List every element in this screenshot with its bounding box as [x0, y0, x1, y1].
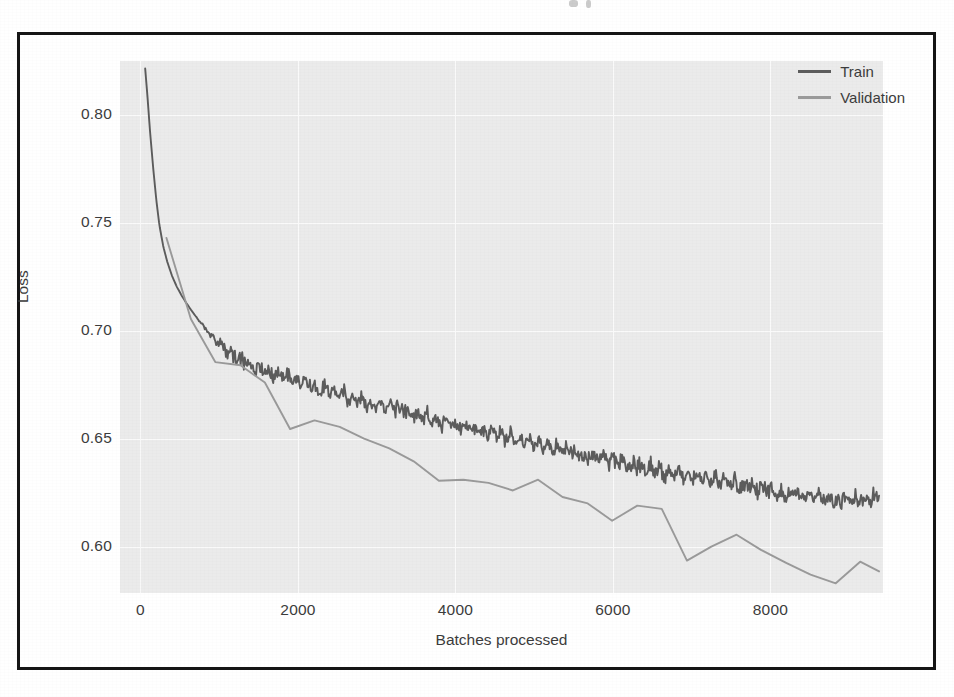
x-axis-title: Batches processed: [120, 631, 883, 649]
y-tick-label: 0.65: [42, 429, 112, 447]
y-tick-label: 0.80: [42, 105, 112, 123]
scan-artifact-strip: [0, 0, 954, 22]
legend-swatch-train: [798, 70, 831, 73]
legend-label-train: Train: [840, 63, 874, 80]
legend-entry-validation: Validation: [798, 89, 905, 106]
legend-label-validation: Validation: [840, 89, 905, 106]
legend-entry-train: Train: [798, 63, 905, 80]
plot-area: [120, 61, 883, 593]
x-tick-label: 0: [136, 601, 145, 619]
x-tick-label: 8000: [753, 601, 788, 619]
series-plot: [120, 61, 883, 593]
series-line-validation: [166, 238, 879, 583]
chart-canvas: 0.600.650.700.750.80 02000400060008000 L…: [20, 35, 933, 667]
y-tick-label: 0.75: [42, 213, 112, 231]
legend-swatch-validation: [798, 96, 831, 99]
x-axis-tick-labels: 02000400060008000: [120, 601, 883, 625]
x-tick-label: 6000: [595, 601, 630, 619]
x-tick-label: 4000: [438, 601, 473, 619]
y-tick-label: 0.60: [42, 537, 112, 555]
figure-frame: 0.600.650.700.750.80 02000400060008000 L…: [17, 32, 936, 670]
series-line-train: [145, 69, 879, 509]
x-tick-label: 2000: [280, 601, 315, 619]
y-axis-title: Loss: [14, 270, 32, 303]
y-axis-tick-labels: 0.600.650.700.750.80: [32, 61, 112, 593]
chart-legend: Train Validation: [798, 63, 905, 106]
y-tick-label: 0.70: [42, 321, 112, 339]
